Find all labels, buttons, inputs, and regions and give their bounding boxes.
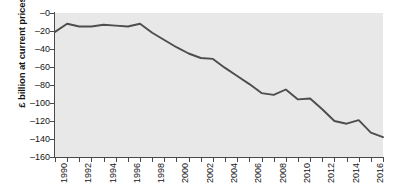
series-line-trade-balance bbox=[55, 24, 383, 137]
series-line-chart bbox=[0, 0, 398, 192]
chart-figure: £ billion at current prices –0–20–40–60–… bbox=[0, 0, 398, 192]
